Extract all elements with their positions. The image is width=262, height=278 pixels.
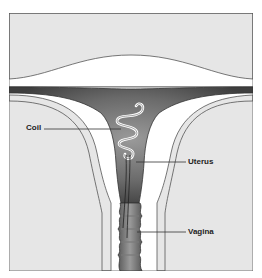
label-coil: Coil <box>26 124 41 132</box>
uterus-diagram <box>9 13 253 271</box>
vagina-canal <box>118 203 142 271</box>
label-uterus: Uterus <box>188 158 213 166</box>
diagram-frame <box>9 13 253 271</box>
label-vagina: Vagina <box>188 228 214 236</box>
